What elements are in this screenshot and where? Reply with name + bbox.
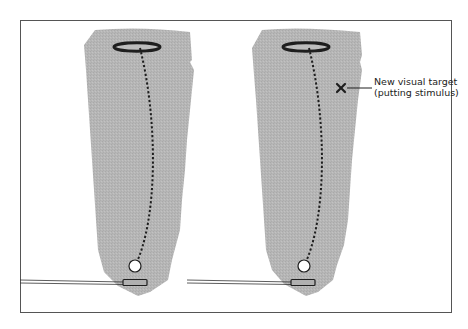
panel-original-target [20,28,194,296]
putter-shaft [187,280,292,282]
putting-green [84,28,194,296]
hole-icon [114,43,160,51]
putter-shaft [20,280,124,282]
diagram-frame [21,21,452,313]
golf-ball-icon [129,260,141,272]
panel-new-visual-target: New visual target (putting stimulus) [187,28,459,296]
putter-head [123,280,147,286]
golf-ball-icon [298,260,310,272]
putting-green [252,28,362,296]
annotation-line1: New visual target [374,76,458,87]
putter-shaft [20,283,124,285]
hole-icon [283,43,329,51]
putter-head [291,280,315,286]
putter-shaft [187,283,292,285]
annotation-line2: (putting stimulus) [374,87,459,98]
putting-diagram: New visual target (putting stimulus) [0,0,468,329]
